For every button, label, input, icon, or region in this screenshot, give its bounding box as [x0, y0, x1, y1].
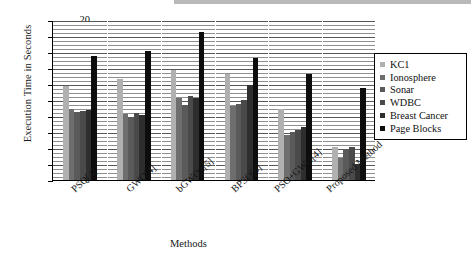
legend-swatch-icon — [380, 62, 385, 67]
legend-swatch-icon — [380, 75, 385, 80]
legend-item-sonar[interactable]: Sonar — [380, 84, 462, 97]
legend-label: Ionosphere — [390, 72, 436, 83]
legend-swatch-icon — [380, 113, 385, 118]
category-separator-4 — [268, 21, 269, 180]
execution-time-bar-chart: Execution Time in Seconds 02468101214161… — [0, 0, 471, 263]
legend-swatch-icon — [380, 87, 385, 92]
category-separator-2 — [161, 21, 162, 180]
bar-pso-4--page-blocks — [91, 56, 97, 180]
legend-label: WDBC — [390, 97, 421, 108]
legend-item-page-blocks[interactable]: Page Blocks — [380, 122, 462, 135]
y-axis-title: Execution Time in Seconds — [22, 14, 33, 154]
legend-swatch-icon — [380, 100, 385, 105]
legend-item-wdbc[interactable]: WDBC — [380, 96, 462, 109]
legend-label: Page Blocks — [390, 123, 441, 134]
plot-area — [53, 21, 375, 180]
plot-frame — [52, 21, 375, 181]
chart-legend: KC1IonosphereSonarWDBCBreast CancerPage … — [374, 53, 467, 140]
legend-item-ionosphere[interactable]: Ionosphere — [380, 71, 462, 84]
category-separator-5 — [322, 21, 323, 180]
legend-label: Breast Cancer — [390, 110, 448, 121]
legend-item-breast-cancer[interactable]: Breast Cancer — [380, 109, 462, 122]
legend-swatch-icon — [380, 126, 385, 131]
x-axis-title: Methods — [170, 238, 207, 249]
y-tick-mark-0 — [48, 181, 53, 182]
legend-item-kc1[interactable]: KC1 — [380, 58, 462, 71]
category-separator-3 — [215, 21, 216, 180]
bar-gwo-4--page-blocks — [145, 51, 151, 180]
legend-label: Sonar — [390, 84, 414, 95]
legend-label: KC1 — [390, 59, 409, 70]
category-separator-1 — [107, 21, 108, 180]
